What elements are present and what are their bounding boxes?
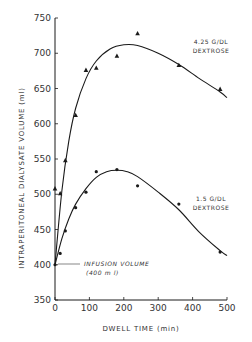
x-tick-label: 400 xyxy=(184,303,201,313)
triangle-marker xyxy=(63,158,68,162)
x-tick-label: 500 xyxy=(218,303,235,313)
upper-series-label-line1: 4.25 G/DL xyxy=(194,38,229,45)
infusion-volume-label-line2: (400 m l) xyxy=(86,269,119,276)
y-tick-label: 500 xyxy=(34,189,51,199)
triangle-marker xyxy=(115,53,120,57)
dot-marker xyxy=(136,184,139,187)
y-tick-label: 550 xyxy=(34,154,51,164)
fit-curves xyxy=(55,44,227,264)
triangle-marker xyxy=(135,31,140,35)
y-tick-label: 600 xyxy=(34,119,51,129)
y-axis-title: INTRAPERITONEAL DIALYSATE VOLUME (ml) xyxy=(18,87,26,268)
y-tick-label: 750 xyxy=(34,13,51,23)
dot-marker xyxy=(219,250,222,253)
x-tick-label: 300 xyxy=(150,303,167,313)
dot-marker xyxy=(84,191,87,194)
lower-series-label-line2: DEXTROSE xyxy=(193,204,230,211)
dot-marker xyxy=(115,168,118,171)
upper-series-label-line2: DEXTROSE xyxy=(193,47,230,54)
dot-marker xyxy=(74,206,77,209)
triangle-marker xyxy=(84,68,89,72)
dot-marker xyxy=(59,252,62,255)
fit-curve-4-25-dextrose xyxy=(55,44,227,264)
x-tick-label: 200 xyxy=(115,303,132,313)
dot-marker xyxy=(64,229,67,232)
infusion-volume-label-line1: INFUSION VOLUME xyxy=(84,260,149,267)
dot-marker xyxy=(53,263,56,266)
triangle-marker xyxy=(53,186,58,190)
y-tick-label: 400 xyxy=(34,260,51,270)
dialysate-volume-chart: 3504004505005506006507007500100200300400… xyxy=(0,0,252,342)
data-markers xyxy=(53,31,223,266)
fit-curve-1-5-dextrose xyxy=(55,170,227,264)
dot-marker xyxy=(95,170,98,173)
axes: 3504004505005506006507007500100200300400… xyxy=(34,13,236,313)
y-tick-label: 650 xyxy=(34,84,51,94)
y-tick-label: 350 xyxy=(34,295,51,305)
x-tick-label: 100 xyxy=(81,303,98,313)
dot-marker xyxy=(177,203,180,206)
x-tick-label: 0 xyxy=(52,303,58,313)
triangle-marker xyxy=(94,65,99,69)
y-tick-label: 450 xyxy=(34,225,51,235)
triangle-marker xyxy=(218,87,223,91)
lower-series-label-line1: 1.5 G/DL xyxy=(196,195,226,202)
x-axis-title: DWELL TIME (min) xyxy=(102,325,179,333)
y-tick-label: 700 xyxy=(34,48,51,58)
